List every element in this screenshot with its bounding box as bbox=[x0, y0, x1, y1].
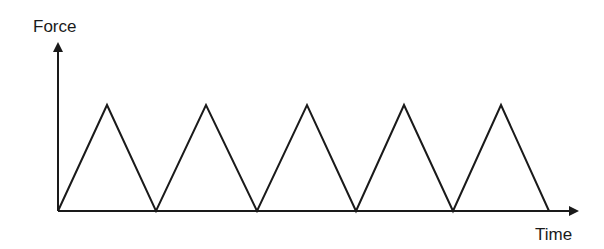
force-time-diagram: Force Time bbox=[0, 0, 604, 249]
y-axis-label: Force bbox=[33, 17, 76, 36]
x-axis-label: Time bbox=[535, 225, 572, 244]
triangular-waveform bbox=[58, 105, 549, 211]
